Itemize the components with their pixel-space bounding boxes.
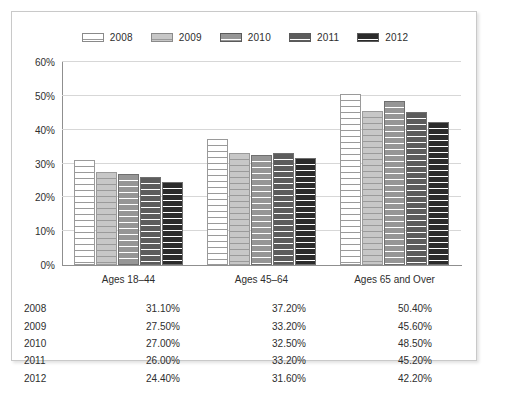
y-tick-label-60: 60% — [35, 57, 55, 68]
y-tick-label-50: 50% — [35, 91, 55, 102]
table-cell-2-3: 45.60% — [352, 317, 478, 334]
table-row: 200927.50%33.20%45.60% — [12, 317, 478, 334]
bar-2008-1[interactable] — [74, 160, 95, 265]
bar-2011-2[interactable] — [273, 153, 294, 265]
bar-2011-1[interactable] — [140, 177, 161, 265]
table-row-year: 2011 — [12, 352, 100, 369]
y-tick-label-20: 20% — [35, 192, 55, 203]
y-tick-label-10: 10% — [35, 226, 55, 237]
data-table-body: 200831.10%37.20%50.40%200927.50%33.20%45… — [12, 300, 478, 387]
bar-2009-3[interactable] — [362, 111, 383, 265]
table-row-year: 2010 — [12, 335, 100, 352]
chart-figure-frame: 2008 2009 2010 2011 2012 0%10%20%30%40%5… — [11, 11, 477, 361]
table-row-year: 2009 — [12, 317, 100, 334]
table-row-year: 2008 — [12, 300, 100, 317]
bar-2008-3[interactable] — [340, 94, 361, 265]
bar-2009-2[interactable] — [229, 153, 250, 265]
table-cell-2-2: 33.20% — [226, 317, 352, 334]
x-category-label-2: Ages 45–64 — [195, 274, 328, 285]
bar-2010-2[interactable] — [251, 155, 272, 265]
x-axis-line — [62, 265, 462, 266]
plot-area: 0%10%20%30%40%50%60%Ages 18–44Ages 45–64… — [62, 62, 461, 265]
bar-2012-3[interactable] — [428, 122, 449, 265]
x-category-label-3: Ages 65 and Over — [328, 274, 461, 285]
data-table: 200831.10%37.20%50.40%200927.50%33.20%45… — [12, 300, 478, 387]
table-cell-2-1: 27.50% — [100, 317, 226, 334]
table-cell-4-3: 45.20% — [352, 352, 478, 369]
bar-2012-2[interactable] — [295, 158, 316, 265]
table-cell-5-3: 42.20% — [352, 370, 478, 387]
bar-2010-1[interactable] — [118, 174, 139, 265]
table-cell-1-2: 37.20% — [226, 300, 352, 317]
y-tick-label-40: 40% — [35, 125, 55, 136]
table-cell-5-2: 31.60% — [226, 370, 352, 387]
bar-2011-3[interactable] — [406, 112, 427, 265]
y-tick-label-0: 0% — [41, 260, 55, 271]
table-cell-3-2: 32.50% — [226, 335, 352, 352]
table-cell-3-1: 27.00% — [100, 335, 226, 352]
bar-2012-1[interactable] — [162, 182, 183, 265]
table-cell-3-3: 48.50% — [352, 335, 478, 352]
table-row-year: 2012 — [12, 370, 100, 387]
table-row: 201027.00%32.50%48.50% — [12, 335, 478, 352]
table-cell-4-2: 33.20% — [226, 352, 352, 369]
table-cell-4-1: 26.00% — [100, 352, 226, 369]
table-cell-1-1: 31.10% — [100, 300, 226, 317]
table-row: 200831.10%37.20%50.40% — [12, 300, 478, 317]
bar-group-3: Ages 65 and Over — [328, 62, 461, 265]
bar-2008-2[interactable] — [207, 139, 228, 265]
y-tick-label-30: 30% — [35, 159, 55, 170]
bar-group-1: Ages 18–44 — [62, 62, 195, 265]
bar-2010-3[interactable] — [384, 101, 405, 265]
bar-2009-1[interactable] — [96, 172, 117, 265]
table-cell-1-3: 50.40% — [352, 300, 478, 317]
table-row: 201224.40%31.60%42.20% — [12, 370, 478, 387]
table-row: 201126.00%33.20%45.20% — [12, 352, 478, 369]
bar-group-2: Ages 45–64 — [195, 62, 328, 265]
x-category-label-1: Ages 18–44 — [62, 274, 195, 285]
table-cell-5-1: 24.40% — [100, 370, 226, 387]
